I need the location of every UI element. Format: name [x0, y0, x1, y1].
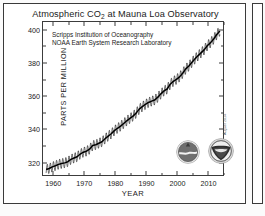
x-tick-label: 1960 — [45, 179, 61, 188]
scripps-logo — [176, 140, 200, 164]
x-tick-label: 1970 — [76, 179, 92, 188]
y-tick-mark — [43, 29, 47, 30]
y-tick-mark — [43, 79, 46, 80]
y-tick-mark — [43, 46, 46, 47]
x-tick-mark — [192, 173, 193, 176]
screenshot-root: Atmospheric CO2 at Mauna Loa Observatory… — [0, 0, 265, 216]
x-tick-mark — [224, 22, 225, 25]
x-tick-mark — [115, 22, 116, 26]
x-tick-mark — [84, 22, 85, 26]
chart-title-main: Atmospheric CO — [32, 9, 101, 19]
x-tick-mark — [68, 22, 69, 25]
x-tick-mark — [177, 171, 178, 175]
y-tick-label: 360 — [28, 92, 40, 101]
y-tick-mark — [221, 46, 224, 47]
y-tick-mark — [43, 96, 47, 97]
x-tick-label: 1990 — [138, 179, 154, 188]
x-tick-mark — [208, 171, 209, 175]
document-frame: Atmospheric CO2 at Mauna Loa Observatory… — [3, 3, 246, 204]
x-tick-mark — [99, 173, 100, 176]
x-tick-mark — [146, 22, 147, 26]
y-tick-mark — [43, 112, 46, 113]
x-tick-label: 1980 — [107, 179, 123, 188]
x-tick-label: 2010 — [200, 179, 216, 188]
chart-title: Atmospheric CO2 at Mauna Loa Observatory — [4, 9, 247, 19]
x-tick-mark — [192, 22, 193, 25]
y-tick-mark — [221, 79, 224, 80]
credit-line-2: NOAA Earth System Research Laboratory — [52, 39, 171, 47]
y-tick-mark — [43, 129, 47, 130]
x-tick-mark — [53, 171, 54, 175]
x-tick-mark — [161, 22, 162, 25]
x-tick-mark — [130, 173, 131, 176]
x-tick-mark — [208, 22, 209, 26]
x-axis-label: YEAR — [42, 189, 224, 198]
credit-block: Scripps Institution of Oceanography NOAA… — [52, 31, 171, 47]
x-tick-label: 2000 — [169, 179, 185, 188]
y-tick-mark — [43, 162, 47, 163]
x-tick-mark — [84, 171, 85, 175]
chart-title-subscript: 2 — [101, 13, 105, 20]
x-tick-mark — [146, 171, 147, 175]
y-tick-label: 320 — [28, 158, 40, 167]
y-tick-label: 400 — [28, 25, 40, 34]
y-tick-mark — [43, 146, 46, 147]
chart-title-tail: at Mauna Loa Observatory — [105, 9, 219, 19]
x-tick-mark — [115, 171, 116, 175]
date-stamp: August 2014 — [223, 95, 227, 135]
x-tick-mark — [53, 22, 54, 26]
page-edge-sliver — [252, 3, 263, 204]
y-tick-mark — [43, 62, 47, 63]
y-tick-mark — [219, 62, 223, 63]
x-tick-mark — [130, 22, 131, 25]
x-tick-mark — [68, 173, 69, 176]
x-tick-mark — [224, 173, 225, 176]
y-tick-label: 380 — [28, 58, 40, 67]
y-tick-mark — [219, 29, 223, 30]
noaa-logo — [208, 138, 234, 164]
x-tick-mark — [177, 22, 178, 26]
x-tick-mark — [99, 22, 100, 25]
y-tick-label: 340 — [28, 125, 40, 134]
credit-line-1: Scripps Institution of Oceanography — [52, 31, 171, 39]
x-tick-mark — [161, 173, 162, 176]
